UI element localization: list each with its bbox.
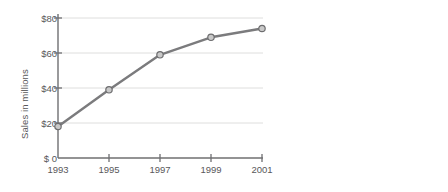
x-tick-label-1993: 1993: [47, 164, 68, 175]
y-tick-label-0: $ 0: [44, 153, 57, 164]
left-chart-svg: [58, 18, 263, 158]
data-point-1995: [106, 87, 112, 93]
data-point-2001: [259, 25, 265, 31]
left-chart-series: [55, 25, 265, 129]
left-chart-x-tick-labels: 1993 1995 1997 1999 2001: [58, 164, 263, 180]
two-line-charts-figure: Sales in millions $80 $60 $40 $20 $ 0: [0, 0, 448, 192]
chart-left: Sales in millions $80 $60 $40 $20 $ 0: [0, 0, 282, 192]
data-point-1993: [55, 123, 61, 129]
x-tick-label-2001: 2001: [251, 164, 272, 175]
x-tick-label-1997: 1997: [149, 164, 170, 175]
chart-right: Sales in millions: [282, 0, 448, 192]
data-point-1997: [157, 52, 163, 58]
left-chart-plot-area: [58, 18, 263, 158]
data-point-1999: [208, 34, 214, 40]
x-tick-label-1995: 1995: [98, 164, 119, 175]
x-tick-label-1999: 1999: [200, 164, 221, 175]
